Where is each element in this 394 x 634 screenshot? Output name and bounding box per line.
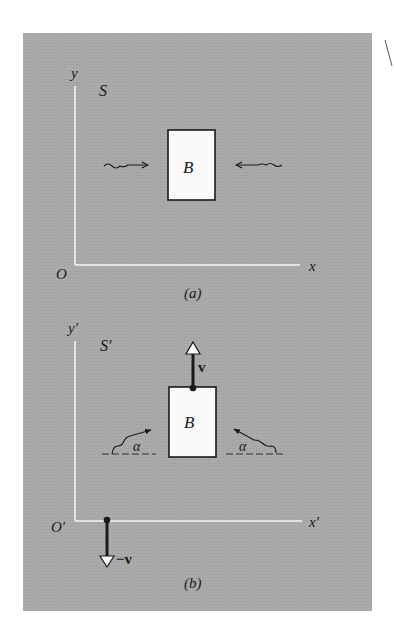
scan-artifact-mark: [385, 40, 392, 66]
caption-b: (b): [184, 575, 202, 592]
velocity-v-label: v: [198, 359, 206, 375]
caption-a: (a): [184, 285, 202, 302]
origin-prime-label: O′: [51, 519, 66, 535]
frame-label-s: S: [99, 82, 107, 99]
frame-label-s-prime: S′: [100, 337, 112, 354]
angle-alpha-left-label: α: [133, 439, 141, 454]
x-prime-axis-label: x′: [308, 514, 320, 530]
origin-label: O: [56, 266, 67, 282]
frame-velocity-minus-v-label: −v: [116, 551, 133, 567]
relativity-diagram: y S x O (a) B y′ S′ x′ O′ (b) B v: [0, 0, 394, 634]
body-b-label: B: [184, 413, 195, 432]
x-axis-label: x: [308, 258, 316, 274]
y-axis-label: y: [69, 65, 78, 81]
body-b-label: B: [183, 158, 194, 177]
angle-alpha-right-label: α: [239, 439, 247, 454]
y-prime-axis-label: y′: [66, 320, 79, 336]
